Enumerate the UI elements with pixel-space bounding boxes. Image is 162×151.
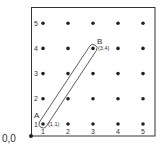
grid-dot xyxy=(66,97,70,101)
x-tick-label: 1 xyxy=(41,128,45,135)
grid-dot xyxy=(116,21,120,25)
y-tick-label: 1 xyxy=(34,121,38,128)
point-a-coord: (1,1) xyxy=(48,121,59,127)
grid-dot xyxy=(116,47,120,51)
grid-dot xyxy=(66,21,70,25)
grid-diagram: 12345 12345 0,0 A (1,1) B (3,4) xyxy=(0,0,162,151)
grid-dot xyxy=(91,122,95,126)
grid-dot xyxy=(141,47,145,51)
origin-label: 0,0 xyxy=(2,133,16,144)
grid-dot xyxy=(141,122,145,126)
x-tick-labels: 12345 xyxy=(41,128,145,135)
x-tick-label: 2 xyxy=(66,128,70,135)
y-tick-label: 4 xyxy=(34,45,38,52)
point-a-label: A xyxy=(34,111,40,120)
grid-dot xyxy=(41,122,45,126)
x-tick-label: 4 xyxy=(116,128,120,135)
grid-dot xyxy=(91,72,95,76)
point-b-coord: (3,4) xyxy=(98,45,109,51)
segment-ab-capsule xyxy=(39,44,97,128)
grid-dot xyxy=(66,47,70,51)
grid-dot xyxy=(116,72,120,76)
y-tick-label: 2 xyxy=(34,95,38,102)
x-tick-label: 5 xyxy=(141,128,145,135)
origin-dot xyxy=(29,134,33,138)
grid-dot xyxy=(91,97,95,101)
y-tick-label: 3 xyxy=(34,70,38,77)
grid-dot xyxy=(41,97,45,101)
grid-dot xyxy=(41,21,45,25)
grid-dot xyxy=(41,72,45,76)
grid-dot xyxy=(141,72,145,76)
grid-dot xyxy=(116,122,120,126)
grid-dot xyxy=(41,47,45,51)
grid-dot xyxy=(141,21,145,25)
grid-dot xyxy=(91,47,95,51)
y-tick-label: 5 xyxy=(34,20,38,27)
x-tick-label: 3 xyxy=(91,128,95,135)
grid-dot xyxy=(141,97,145,101)
grid-dot xyxy=(66,122,70,126)
grid-dot xyxy=(116,97,120,101)
frame xyxy=(32,8,156,137)
grid-dot xyxy=(66,72,70,76)
grid-dot xyxy=(91,21,95,25)
